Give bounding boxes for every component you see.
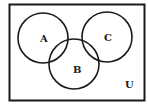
venn-diagram: A B C U (0, 0, 148, 111)
set-b-label: B (73, 64, 81, 75)
set-c-label: C (104, 32, 112, 43)
set-a-label: A (39, 33, 48, 44)
universe-label: U (125, 79, 134, 90)
